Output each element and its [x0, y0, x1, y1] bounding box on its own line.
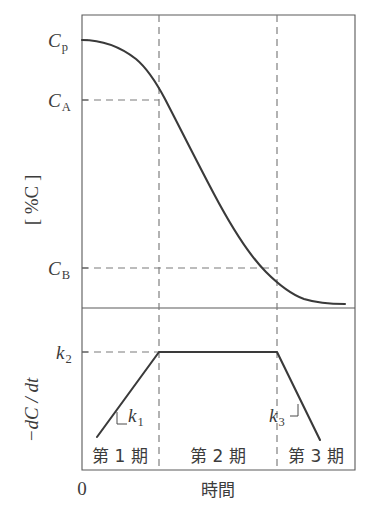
region-label-1-text: 第 1 期	[92, 446, 148, 466]
upper-y-axis-title: [ %C ]	[21, 175, 42, 226]
slope-marker-k1	[117, 412, 127, 424]
slope-marker-k3	[290, 404, 298, 416]
label-k3: k3	[269, 405, 285, 429]
label-cb-subscript: B	[62, 268, 70, 282]
label-cb-symbol: C	[48, 258, 61, 279]
label-ca-symbol: C	[48, 90, 61, 111]
figure-container: Cp CA CB k2 k1 k3	[0, 0, 372, 514]
label-cb: CB	[48, 258, 70, 282]
region-label-3: 第 3 期	[288, 446, 344, 466]
chart-svg: Cp CA CB k2 k1 k3	[0, 0, 372, 514]
label-k1-subscript: 1	[137, 415, 143, 429]
lower-y-axis-title-text: −dC / dt	[21, 377, 42, 442]
region-label-3-text: 第 3 期	[288, 446, 344, 466]
label-k1-symbol: k	[128, 405, 137, 426]
label-k2: k2	[56, 342, 72, 366]
x-axis-title-text: 時間	[201, 480, 235, 500]
svg-text:CA: CA	[48, 90, 71, 114]
axis-tick-marks	[82, 40, 88, 352]
label-ca-subscript: A	[62, 100, 71, 114]
svg-text:k2: k2	[56, 342, 72, 366]
label-k2-symbol: k	[56, 342, 65, 363]
label-k3-symbol: k	[269, 405, 278, 426]
label-k2-subscript: 2	[65, 352, 71, 366]
svg-text:k1: k1	[128, 405, 144, 429]
period-boundary-lines	[159, 15, 277, 470]
rate-trapezoid-curve	[97, 352, 320, 440]
x-axis-title: 時間	[201, 480, 235, 500]
label-cp-subscript: p	[62, 40, 68, 54]
upper-y-axis-title-text: [ %C ]	[21, 175, 42, 226]
label-cp: Cp	[48, 30, 68, 54]
concentration-curve	[82, 40, 345, 304]
region-label-2-text: 第 2 期	[190, 446, 246, 466]
region-label-1: 第 1 期	[92, 446, 148, 466]
label-k3-subscript: 3	[278, 415, 284, 429]
label-cp-symbol: C	[48, 30, 61, 51]
svg-text:k3: k3	[269, 405, 285, 429]
origin-label: 0	[77, 478, 87, 499]
label-k1: k1	[128, 405, 144, 429]
svg-text:Cp: Cp	[48, 30, 68, 54]
lower-y-axis-title: −dC / dt	[21, 377, 42, 442]
label-ca: CA	[48, 90, 71, 114]
origin-label-text: 0	[77, 478, 87, 499]
region-label-2: 第 2 期	[190, 446, 246, 466]
svg-text:CB: CB	[48, 258, 70, 282]
